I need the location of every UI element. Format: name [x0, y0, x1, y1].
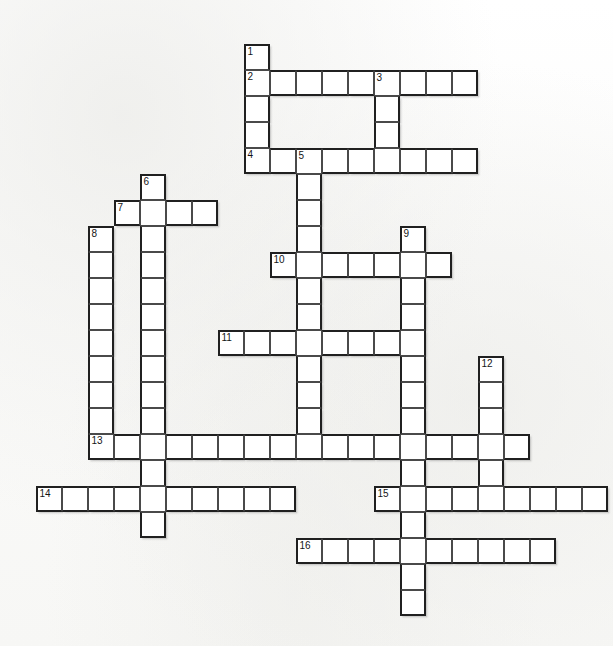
- crossword-cell[interactable]: [296, 330, 322, 356]
- crossword-cell[interactable]: [374, 96, 400, 122]
- crossword-cell[interactable]: [504, 434, 530, 460]
- crossword-cell[interactable]: [400, 70, 426, 96]
- crossword-cell[interactable]: [244, 96, 270, 122]
- crossword-cell[interactable]: [426, 148, 452, 174]
- crossword-cell[interactable]: [400, 486, 426, 512]
- crossword-cell-numbered-6[interactable]: 6: [140, 174, 166, 200]
- crossword-cell[interactable]: [88, 486, 114, 512]
- crossword-cell[interactable]: [114, 486, 140, 512]
- crossword-cell[interactable]: [270, 330, 296, 356]
- crossword-cell[interactable]: [374, 252, 400, 278]
- crossword-cell-numbered-5[interactable]: 5: [296, 148, 322, 174]
- crossword-cell-numbered-10[interactable]: 10: [270, 252, 296, 278]
- crossword-cell[interactable]: [426, 70, 452, 96]
- crossword-cell[interactable]: [348, 538, 374, 564]
- crossword-cell[interactable]: [140, 252, 166, 278]
- crossword-cell[interactable]: [400, 460, 426, 486]
- crossword-cell[interactable]: [140, 486, 166, 512]
- crossword-cell[interactable]: [296, 252, 322, 278]
- crossword-cell[interactable]: [348, 148, 374, 174]
- crossword-cell[interactable]: [270, 148, 296, 174]
- crossword-cell[interactable]: [504, 486, 530, 512]
- crossword-cell-numbered-11[interactable]: 11: [218, 330, 244, 356]
- crossword-cell[interactable]: [452, 70, 478, 96]
- crossword-cell[interactable]: [88, 278, 114, 304]
- crossword-cell[interactable]: [400, 434, 426, 460]
- crossword-cell[interactable]: [140, 278, 166, 304]
- crossword-cell[interactable]: [114, 434, 140, 460]
- crossword-cell[interactable]: [478, 486, 504, 512]
- crossword-cell[interactable]: [452, 538, 478, 564]
- crossword-cell[interactable]: [296, 70, 322, 96]
- crossword-cell[interactable]: [400, 304, 426, 330]
- crossword-cell[interactable]: [426, 252, 452, 278]
- crossword-cell[interactable]: [348, 330, 374, 356]
- crossword-cell[interactable]: [88, 408, 114, 434]
- crossword-cell-numbered-2[interactable]: 2: [244, 70, 270, 96]
- crossword-cell[interactable]: [140, 434, 166, 460]
- crossword-cell[interactable]: [452, 486, 478, 512]
- crossword-cell[interactable]: [478, 408, 504, 434]
- crossword-cell[interactable]: [192, 486, 218, 512]
- crossword-cell[interactable]: [374, 122, 400, 148]
- crossword-cell[interactable]: [244, 122, 270, 148]
- crossword-cell[interactable]: [400, 356, 426, 382]
- crossword-cell[interactable]: [478, 538, 504, 564]
- crossword-grid[interactable]: 12345678910111213141516: [0, 0, 613, 646]
- crossword-cell-numbered-7[interactable]: 7: [114, 200, 140, 226]
- crossword-cell[interactable]: [88, 304, 114, 330]
- crossword-cell[interactable]: [400, 382, 426, 408]
- crossword-cell[interactable]: [296, 278, 322, 304]
- crossword-cell[interactable]: [400, 590, 426, 616]
- crossword-cell-numbered-14[interactable]: 14: [36, 486, 62, 512]
- crossword-cell[interactable]: [400, 408, 426, 434]
- crossword-cell[interactable]: [556, 486, 582, 512]
- crossword-cell[interactable]: [140, 408, 166, 434]
- crossword-cell[interactable]: [582, 486, 608, 512]
- crossword-cell[interactable]: [192, 434, 218, 460]
- crossword-cell[interactable]: [322, 148, 348, 174]
- crossword-cell-numbered-1[interactable]: 1: [244, 44, 270, 70]
- crossword-cell[interactable]: [218, 434, 244, 460]
- crossword-cell[interactable]: [296, 304, 322, 330]
- crossword-cell[interactable]: [348, 434, 374, 460]
- crossword-cell[interactable]: [296, 174, 322, 200]
- crossword-cell[interactable]: [140, 382, 166, 408]
- crossword-cell-numbered-9[interactable]: 9: [400, 226, 426, 252]
- crossword-cell[interactable]: [296, 408, 322, 434]
- crossword-cell[interactable]: [374, 434, 400, 460]
- crossword-cell[interactable]: [140, 330, 166, 356]
- crossword-cell[interactable]: [296, 226, 322, 252]
- crossword-cell[interactable]: [140, 512, 166, 538]
- crossword-cell[interactable]: [374, 538, 400, 564]
- crossword-cell[interactable]: [166, 434, 192, 460]
- crossword-cell[interactable]: [400, 148, 426, 174]
- crossword-cell[interactable]: [322, 252, 348, 278]
- crossword-cell[interactable]: [166, 200, 192, 226]
- crossword-cell[interactable]: [348, 70, 374, 96]
- crossword-cell[interactable]: [452, 148, 478, 174]
- crossword-cell[interactable]: [296, 356, 322, 382]
- crossword-cell[interactable]: [400, 564, 426, 590]
- crossword-cell[interactable]: [62, 486, 88, 512]
- crossword-cell[interactable]: [348, 252, 374, 278]
- crossword-cell[interactable]: [400, 512, 426, 538]
- crossword-cell[interactable]: [244, 434, 270, 460]
- crossword-cell-numbered-15[interactable]: 15: [374, 486, 400, 512]
- crossword-cell[interactable]: [374, 330, 400, 356]
- crossword-cell-numbered-16[interactable]: 16: [296, 538, 322, 564]
- crossword-cell[interactable]: [296, 434, 322, 460]
- crossword-cell[interactable]: [88, 330, 114, 356]
- crossword-cell[interactable]: [400, 252, 426, 278]
- crossword-cell-numbered-4[interactable]: 4: [244, 148, 270, 174]
- crossword-cell-numbered-8[interactable]: 8: [88, 226, 114, 252]
- crossword-cell[interactable]: [400, 538, 426, 564]
- crossword-cell[interactable]: [140, 304, 166, 330]
- crossword-cell[interactable]: [452, 434, 478, 460]
- crossword-cell[interactable]: [270, 434, 296, 460]
- crossword-cell[interactable]: [192, 200, 218, 226]
- crossword-cell[interactable]: [478, 460, 504, 486]
- crossword-cell[interactable]: [270, 70, 296, 96]
- crossword-cell[interactable]: [140, 356, 166, 382]
- crossword-cell[interactable]: [296, 382, 322, 408]
